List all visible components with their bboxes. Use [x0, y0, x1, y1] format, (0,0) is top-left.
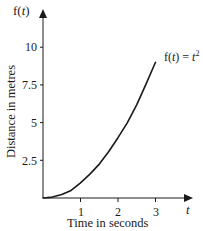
x-tick-label-3: 3: [149, 206, 163, 218]
y-axis-symbol: f(t): [13, 5, 30, 17]
curve-f-t-squared: [43, 62, 156, 198]
y-axis-label: Distance in metres: [4, 57, 19, 167]
x-ticks: [81, 198, 156, 202]
curve-label-exponent: 2: [195, 49, 199, 58]
y-tick-label-10: 10: [7, 41, 37, 53]
x-axis-label: Time in seconds: [67, 217, 149, 229]
curve-label-equals: ) =: [175, 50, 192, 64]
x-axis-symbol: t: [186, 204, 190, 216]
y-symbol-close: ): [25, 3, 29, 18]
curve-label: f(t) = t2: [164, 48, 199, 63]
y-axis-arrow-icon: [39, 9, 47, 18]
curve-label-f: f(: [164, 50, 172, 64]
y-symbol-f: f(: [13, 3, 22, 18]
x-axis-arrow-icon: [184, 194, 193, 202]
